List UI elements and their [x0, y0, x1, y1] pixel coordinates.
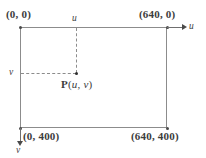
- screen-rectangle: [20, 27, 167, 128]
- u-axis-line: [167, 27, 183, 28]
- point-name: P: [61, 78, 68, 90]
- point-p-marker: [75, 72, 78, 75]
- dashed-guide-vertical: [76, 28, 77, 73]
- corner-label-top-right: (640, 0): [139, 9, 175, 20]
- v-tick-label: v: [9, 68, 13, 78]
- u-tick-label: u: [72, 14, 77, 24]
- corner-label-bottom-right: (640, 400): [131, 131, 179, 142]
- corner-dot-top-left: [19, 26, 22, 29]
- corner-label-top-left: (0, 0): [6, 9, 31, 20]
- u-axis-label: u: [189, 22, 194, 32]
- u-axis-arrowhead-icon: [182, 24, 187, 30]
- point-close-paren: ): [89, 78, 93, 90]
- v-axis-label: v: [16, 146, 20, 156]
- point-p-label: P(u, v): [61, 79, 92, 90]
- v-axis-line: [20, 128, 21, 142]
- coordinate-diagram: (0, 0) (640, 0) (0, 400) (640, 400) u v …: [0, 0, 206, 158]
- dashed-guide-horizontal: [21, 73, 76, 74]
- corner-label-bottom-left: (0, 400): [23, 131, 59, 142]
